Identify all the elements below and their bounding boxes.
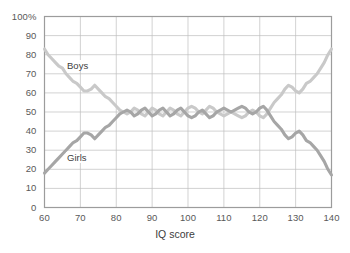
- x-axis-title: IQ score: [0, 228, 350, 240]
- x-tick-90: 90: [136, 212, 168, 223]
- x-tick-140: 140: [316, 212, 348, 223]
- grid-lines: [45, 17, 332, 208]
- x-tick-70: 70: [64, 212, 96, 223]
- y-tick-60: 60: [0, 87, 37, 98]
- y-tick-100: 100%: [0, 11, 37, 22]
- y-tick-30: 30: [0, 144, 37, 155]
- x-tick-120: 120: [244, 212, 276, 223]
- x-tick-110: 110: [208, 212, 240, 223]
- y-tick-80: 80: [0, 49, 37, 60]
- y-tick-10: 10: [0, 182, 37, 193]
- x-tick-80: 80: [100, 212, 132, 223]
- iq-score-line-chart: 0102030405060708090100% 6070809010011012…: [0, 0, 350, 253]
- x-tick-60: 60: [29, 212, 61, 223]
- x-tick-130: 130: [280, 212, 312, 223]
- x-tick-100: 100: [172, 212, 204, 223]
- y-tick-20: 20: [0, 163, 37, 174]
- y-tick-50: 50: [0, 106, 37, 117]
- y-tick-40: 40: [0, 125, 37, 136]
- series-label-girls: Girls: [66, 152, 88, 163]
- y-tick-90: 90: [0, 30, 37, 41]
- y-tick-70: 70: [0, 68, 37, 79]
- series-label-boys: Boys: [66, 60, 89, 71]
